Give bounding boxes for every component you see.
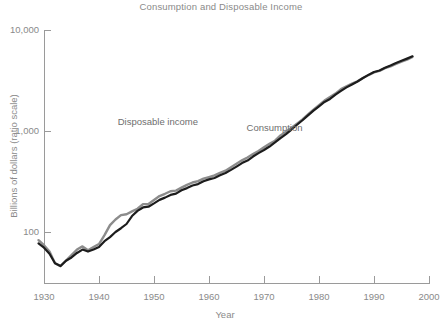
series-label-disposable-income: Disposable income xyxy=(118,116,198,127)
x-tick-label-1930: 1930 xyxy=(33,291,54,302)
chart-figure: Consumption and Disposable Income 10,000… xyxy=(0,0,442,323)
x-tick-label-1950: 1950 xyxy=(143,291,164,302)
y-tick-label-10000: 10,000 xyxy=(10,24,39,35)
y-tick-label-100: 100 xyxy=(23,226,39,237)
x-axis-tick-labels: 1930 1940 1950 1960 1970 1980 1990 2000 xyxy=(33,291,439,302)
x-tick-label-1980: 1980 xyxy=(308,291,329,302)
x-axis-title: Year xyxy=(215,309,234,320)
series-label-consumption: Consumption xyxy=(247,122,303,133)
x-tick-label-1960: 1960 xyxy=(198,291,219,302)
line-chart-plot: 10,000 1,000 100 1930 1940 1950 1960 197… xyxy=(0,0,442,323)
x-tick-label-1940: 1940 xyxy=(88,291,109,302)
x-tick-label-2000: 2000 xyxy=(418,291,439,302)
series-line-disposable-income xyxy=(39,57,413,266)
y-axis-ticks xyxy=(44,30,51,232)
y-axis-title: Billions of dollars (ratio scale) xyxy=(8,94,19,218)
x-axis-ticks xyxy=(44,276,429,283)
x-tick-label-1970: 1970 xyxy=(253,291,274,302)
x-tick-label-1990: 1990 xyxy=(363,291,384,302)
series-line-consumption xyxy=(39,56,413,266)
